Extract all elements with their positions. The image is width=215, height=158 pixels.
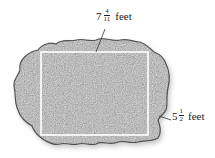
length-label: 7 4 11 feet	[96, 8, 132, 23]
length-whole: 7	[96, 10, 102, 22]
width-denominator: 2	[179, 116, 185, 123]
length-denominator: 11	[103, 16, 112, 23]
width-whole: 5	[172, 110, 178, 122]
width-unit: feet	[188, 110, 204, 122]
length-unit: feet	[115, 10, 131, 22]
length-fraction: 4 11	[103, 8, 112, 23]
figure-stage: 7 4 11 feet 5 1 2 feet	[0, 0, 215, 158]
width-fraction: 1 2	[179, 108, 185, 123]
width-label: 5 1 2 feet	[172, 108, 204, 123]
rock-diagram	[0, 0, 215, 158]
